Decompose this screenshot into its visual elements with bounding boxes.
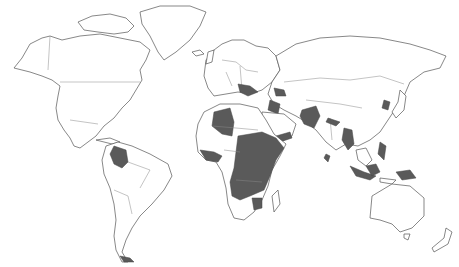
maritime-southeast-asia bbox=[350, 142, 416, 184]
zimbabwe-highlight bbox=[252, 198, 262, 210]
sri-lanka-highlight bbox=[324, 154, 330, 162]
png-highlight bbox=[396, 170, 416, 180]
asia bbox=[262, 36, 446, 162]
europe bbox=[204, 40, 280, 96]
sahel-east-africa-highlight bbox=[230, 132, 284, 200]
world-map bbox=[0, 0, 459, 267]
north-america bbox=[14, 14, 150, 148]
south-america bbox=[102, 142, 172, 262]
philippines-highlight bbox=[378, 142, 386, 160]
myanmar-highlight bbox=[342, 128, 354, 150]
greenland bbox=[140, 6, 206, 60]
oceania bbox=[370, 184, 452, 252]
